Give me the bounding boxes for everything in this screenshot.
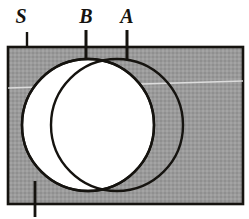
venn-diagram-canvas: S B A [0,0,249,219]
label-set-b: B [78,5,92,27]
label-set-a: A [118,5,133,27]
figure-root: S B A [0,0,249,219]
set-circle-right [51,59,183,191]
label-universal-set-s: S [15,5,26,27]
